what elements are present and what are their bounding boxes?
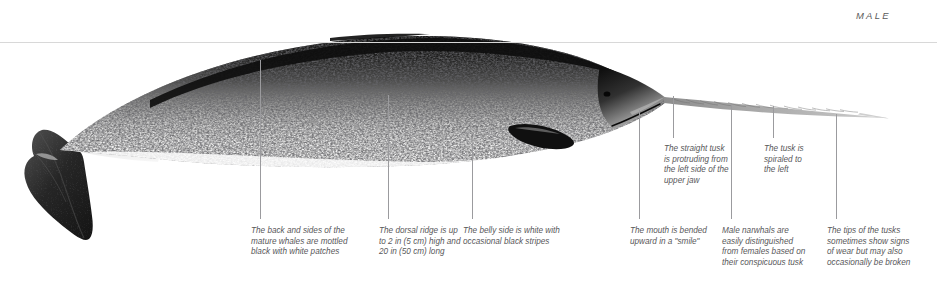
annotation-mouth-smile: The mouth is bended upward in a "smile": [630, 226, 724, 247]
annotation-tusk-tips-wear: The tips of the tusks sometimes show sig…: [827, 226, 933, 268]
annotation-straight-tusk: The straight tusk is protruding from the…: [664, 144, 752, 186]
sex-label-male: MALE: [856, 10, 891, 21]
annotation-tusk-spiral: The tusk is spiraled to the left: [764, 144, 832, 176]
leader-line-tusk-spiral: [773, 106, 774, 138]
leader-line-mouth-smile: [639, 110, 640, 219]
body-mottling: [50, 30, 680, 175]
narwhal-body: [50, 30, 680, 175]
annotation-belly-side: The belly side is white with occasional …: [463, 226, 587, 247]
annotation-dorsal-ridge: The dorsal ridge is up to 2 in (5 cm) hi…: [379, 226, 475, 258]
leader-line-back-and-sides: [260, 60, 261, 219]
leader-line-belly-side: [472, 143, 473, 219]
leader-line-tusk-tips-wear: [836, 114, 837, 219]
reference-rule: [0, 42, 937, 43]
infographic-canvas: MALE The back and sides of the mature wh…: [0, 0, 937, 295]
leader-line-dorsal-ridge: [388, 95, 389, 219]
eye: [604, 91, 611, 96]
leader-line-straight-tusk: [673, 96, 674, 138]
annotation-back-and-sides: The back and sides of the mature whales …: [251, 226, 369, 258]
narwhal-head: [598, 66, 666, 129]
tusk: [664, 97, 889, 118]
annotation-male-tusk-distinction: Male narwhals are easily distinguished f…: [722, 226, 826, 268]
